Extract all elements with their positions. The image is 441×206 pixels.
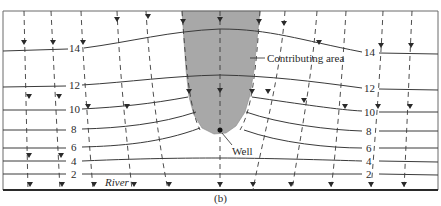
arrow-icon [58, 153, 64, 158]
well-point-icon [218, 128, 223, 133]
flow-line [24, 11, 28, 190]
flow-line [117, 11, 132, 190]
contour-label-4-right: 4 [366, 155, 372, 167]
arrow-icon [378, 43, 384, 48]
arrow-icon [50, 40, 56, 45]
arrow-icon [145, 14, 151, 19]
well-leader-line [222, 133, 232, 145]
contour-label-8-right: 8 [366, 125, 372, 137]
contour-label-10-right: 10 [364, 106, 376, 118]
contour-label-2-right: 2 [366, 168, 372, 180]
contour-label-6-right: 6 [366, 142, 372, 154]
arrow-icon [217, 182, 223, 187]
arrow-icon [56, 94, 62, 99]
contour-label-10-left: 10 [69, 103, 81, 115]
arrow-icon [342, 104, 348, 109]
flow-line [331, 11, 346, 190]
flow-line [81, 11, 93, 190]
groundwater-flow-diagram: 14 12 10 8 6 4 2 14 12 10 8 6 4 2 [0, 0, 441, 206]
arrow-icon [26, 94, 32, 99]
arrow-icon [368, 182, 374, 187]
contour-label-12-left: 12 [69, 79, 80, 91]
flow-line [253, 11, 285, 190]
arrow-icon [375, 104, 381, 109]
arrow-icon [91, 182, 97, 187]
contour-2 [3, 174, 438, 175]
arrow-icon [407, 104, 413, 109]
contour-label-8-left: 8 [71, 123, 77, 135]
contour-label-2-left: 2 [71, 168, 77, 180]
arrow-icon [21, 40, 27, 45]
arrow-icon [281, 21, 287, 26]
river-label: River [104, 176, 130, 188]
arrow-icon [328, 182, 334, 187]
contour-label-4-left: 4 [71, 155, 77, 167]
contour-label-14-left: 14 [69, 42, 81, 54]
arrow-icon [124, 104, 130, 109]
arrow-icon [401, 182, 407, 187]
contour-label-14-right: 14 [364, 46, 376, 58]
contributing-area-label: Contributing area [267, 52, 344, 64]
contour-4 [3, 158, 438, 162]
flow-line [404, 11, 412, 190]
arrow-icon [114, 17, 120, 22]
arrow-icon [265, 89, 271, 94]
contour-label-12-right: 12 [364, 82, 375, 94]
well-label: Well [232, 145, 253, 157]
arrow-icon [408, 43, 414, 48]
arrow-icon [250, 182, 256, 187]
contour-label-6-left: 6 [71, 141, 77, 153]
figure-caption: (b) [0, 192, 441, 204]
flow-line [371, 11, 383, 190]
arrow-icon [80, 40, 86, 45]
flow-line [51, 11, 60, 190]
